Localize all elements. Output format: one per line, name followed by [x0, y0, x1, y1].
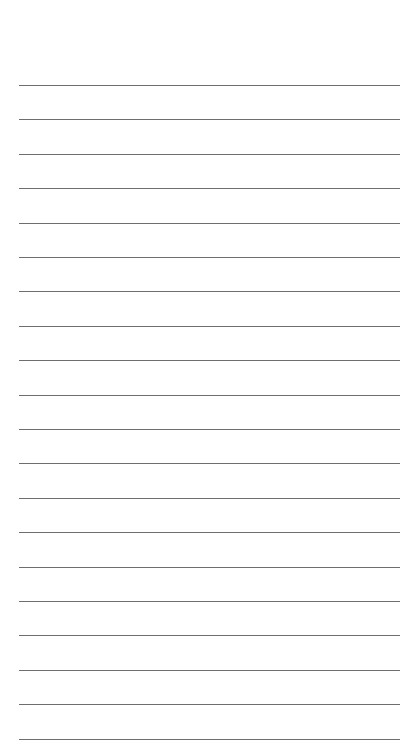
ruled-line: [19, 739, 400, 740]
ruled-line: [19, 567, 400, 568]
ruled-line: [19, 188, 400, 189]
ruled-line: [19, 154, 400, 155]
ruled-line: [19, 670, 400, 671]
ruled-line: [19, 223, 400, 224]
ruled-line: [19, 704, 400, 705]
ruled-line: [19, 532, 400, 533]
ruled-line: [19, 635, 400, 636]
ruled-line: [19, 429, 400, 430]
ruled-line: [19, 395, 400, 396]
ruled-line: [19, 257, 400, 258]
ruled-line: [19, 463, 400, 464]
ruled-line: [19, 119, 400, 120]
ruled-line: [19, 85, 400, 86]
ruled-line: [19, 360, 400, 361]
ruled-line: [19, 498, 400, 499]
ruled-line: [19, 326, 400, 327]
ruled-line: [19, 291, 400, 292]
ruled-page: [0, 0, 418, 750]
ruled-line: [19, 601, 400, 602]
